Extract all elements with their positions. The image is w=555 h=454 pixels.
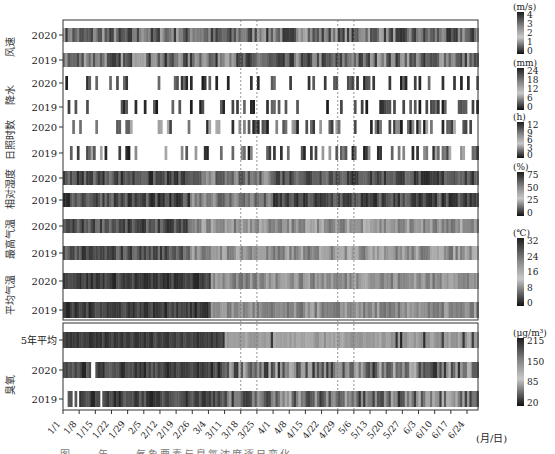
x-tick-label: 5/20 <box>365 419 386 441</box>
heatmap-row <box>63 219 479 233</box>
colorbar <box>517 122 524 158</box>
colorbar-tick: 20 <box>527 398 539 408</box>
x-tick-label: 6/24 <box>446 419 467 441</box>
row-label: 2020 <box>32 365 57 376</box>
heatmap-row <box>63 362 479 378</box>
row-label: 2020 <box>32 122 57 133</box>
colorbar-tick: 50 <box>527 183 539 193</box>
colorbar <box>517 68 524 110</box>
x-tick-label: 1/15 <box>74 419 95 441</box>
row-label: 2019 <box>32 195 57 206</box>
group-label: 最高气温 <box>4 219 16 259</box>
colorbar-tick: 75 <box>527 170 539 180</box>
colorbar-tick: 0 <box>527 150 533 160</box>
row-label: 2020 <box>32 30 57 41</box>
x-axis-label: (月/日) <box>476 433 507 444</box>
group-label: 臭氧 <box>4 375 16 395</box>
row-label: 2019 <box>32 55 57 66</box>
colorbar <box>517 12 524 54</box>
row-label: 2020 <box>32 221 57 232</box>
heatmap-row <box>63 53 479 67</box>
x-tick-label: 5/27 <box>381 419 402 441</box>
group-label: 平均气温 <box>4 275 16 315</box>
x-tick-label: 4/22 <box>300 419 321 441</box>
colorbar-tick: 16 <box>527 267 539 277</box>
heatmap-row <box>63 302 479 318</box>
row-label: 2019 <box>32 394 57 405</box>
row-label: 2020 <box>32 276 57 287</box>
x-tick-label: 4/15 <box>284 419 305 441</box>
colorbar-tick: 0 <box>527 46 533 56</box>
group-label: 相对湿度 <box>4 169 16 209</box>
row-label: 2019 <box>32 305 57 316</box>
heatmap-row <box>63 171 479 185</box>
heatmap-row <box>68 100 479 114</box>
group-label: 降水 <box>4 85 16 105</box>
colorbar-tick: 24 <box>527 252 539 262</box>
colorbar-unit: (h) <box>513 112 526 122</box>
colorbar <box>517 238 524 306</box>
colorbar-tick: 150 <box>527 357 544 367</box>
colorbar-tick: 32 <box>527 236 538 246</box>
heatmap-row <box>63 28 479 42</box>
x-tick-label: 3/18 <box>220 419 241 441</box>
row-label: 2019 <box>32 248 57 259</box>
x-tick-label: 1/22 <box>90 419 111 441</box>
x-tick-label: 6/10 <box>414 419 435 441</box>
heatmap-row <box>68 391 479 407</box>
x-tick-label: 2/26 <box>171 419 192 441</box>
row-label: 2019 <box>32 148 57 159</box>
x-tick-label: 2/19 <box>155 419 176 441</box>
colorbar <box>517 338 524 406</box>
colorbar-tick: 25 <box>527 195 539 205</box>
heatmap-row <box>63 193 479 207</box>
colorbar-tick: 0 <box>527 208 533 218</box>
x-tick-label: 2/12 <box>139 419 160 441</box>
plot-area: 2020201920202019202020192020201920202019… <box>0 0 555 454</box>
colorbar-tick: 85 <box>527 377 539 387</box>
group-label: 日照时数 <box>4 120 16 160</box>
x-tick-label: 4/1 <box>256 419 273 437</box>
colorbar <box>517 172 524 216</box>
row-label: 5年平均 <box>21 334 57 346</box>
heatmap-row <box>65 76 479 90</box>
colorbar-tick: 0 <box>527 102 533 112</box>
figure-caption: 图 ... 年 ... 气象要素与臭氧浓度逐日变化 <box>60 446 292 454</box>
colorbar-tick: 8 <box>527 283 533 293</box>
x-tick-label: 3/25 <box>236 419 257 441</box>
row-label: 2019 <box>32 102 57 113</box>
x-tick-label: 4/29 <box>317 419 338 441</box>
x-tick-label: 3/11 <box>203 419 224 441</box>
heatmap-row <box>72 120 472 134</box>
heatmap-row <box>63 273 479 289</box>
x-tick-label: 1/1 <box>46 419 63 437</box>
x-tick-label: 6/17 <box>430 419 451 441</box>
heatmap-row <box>70 146 479 160</box>
heatmap-row <box>63 246 479 260</box>
x-tick-label: 5/13 <box>349 419 370 441</box>
heatmap-figure: 2020201920202019202020192020201920202019… <box>0 0 555 454</box>
row-label: 2020 <box>32 173 57 184</box>
colorbar-tick: 0 <box>527 298 533 308</box>
row-label: 2020 <box>32 78 57 89</box>
group-label: 风速 <box>5 37 16 57</box>
heatmap-row <box>63 332 479 348</box>
colorbar-tick: 215 <box>527 336 544 346</box>
x-tick-label: 1/29 <box>107 419 128 441</box>
colorbar-unit: (m/s) <box>513 2 536 12</box>
